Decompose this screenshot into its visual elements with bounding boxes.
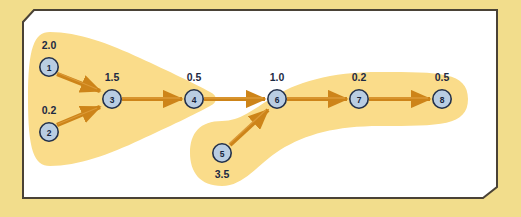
node-id-label: 8: [440, 95, 445, 105]
diagram-stage: 1 2.0 2 0.2 3 1.5 4 0.5 5 3.5 6 1.0: [0, 0, 521, 217]
node-value-label: 2.0: [42, 39, 57, 51]
node-id-label: 1: [47, 63, 52, 73]
node-value-label: 1.0: [270, 71, 285, 83]
node-value-label: 0.2: [42, 104, 57, 116]
node-id-label: 7: [357, 95, 362, 105]
node-id-label: 6: [275, 95, 280, 105]
node-value-label: 0.5: [435, 71, 450, 83]
node-id-label: 4: [192, 95, 197, 105]
node-value-label: 3.5: [215, 168, 230, 180]
node-value-label: 0.2: [352, 71, 367, 83]
node-value-label: 1.5: [105, 71, 120, 83]
node-value-label: 0.5: [187, 71, 202, 83]
node-id-label: 5: [220, 149, 225, 159]
graph-figure: 1 2.0 2 0.2 3 1.5 4 0.5 5 3.5 6 1.0: [0, 0, 521, 217]
node-id-label: 3: [110, 95, 115, 105]
node-id-label: 2: [47, 128, 52, 138]
